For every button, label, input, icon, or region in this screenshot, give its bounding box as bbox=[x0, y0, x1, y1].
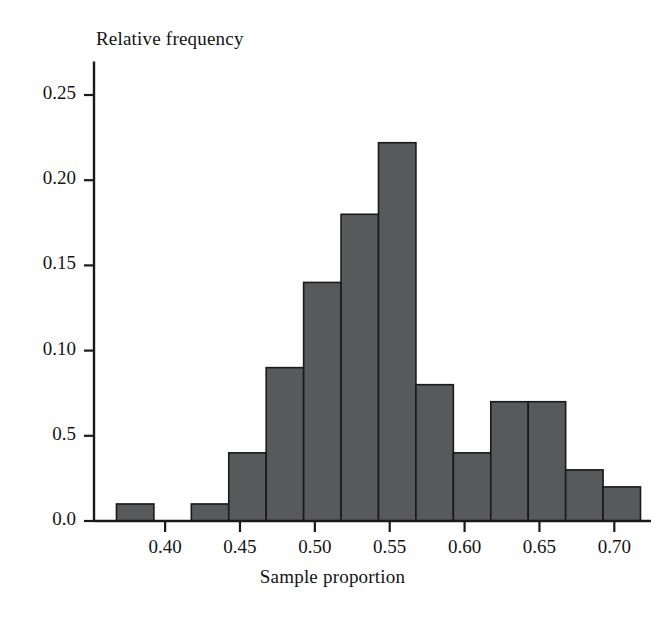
x-axis-tick-label: 0.50 bbox=[275, 536, 355, 558]
histogram-bar bbox=[229, 453, 266, 521]
y-axis-tick-label: 0.10 bbox=[14, 338, 76, 360]
y-axis-ticks bbox=[84, 95, 94, 521]
histogram-bar bbox=[116, 504, 153, 521]
histogram-bar bbox=[603, 487, 640, 521]
histogram-bar bbox=[453, 453, 490, 521]
y-axis-tick-label: 0.15 bbox=[14, 252, 76, 274]
x-axis-tick-label: 0.55 bbox=[350, 536, 430, 558]
histogram-bar bbox=[378, 143, 415, 521]
histogram-bar bbox=[491, 402, 528, 521]
y-axis-tick-label: 0.25 bbox=[14, 82, 76, 104]
y-axis-tick-label: 0.0 bbox=[14, 508, 76, 530]
x-axis-tick-label: 0.40 bbox=[125, 536, 205, 558]
y-axis-tick-label: 0.20 bbox=[14, 167, 76, 189]
histogram-bar bbox=[566, 470, 603, 521]
histogram-bars bbox=[116, 143, 640, 521]
x-axis-ticks bbox=[165, 521, 614, 532]
x-axis-title: Sample proportion bbox=[0, 566, 665, 588]
histogram-bar bbox=[528, 402, 565, 521]
histogram-bar bbox=[304, 282, 341, 521]
histogram-figure: Relative frequency Sample proportion 0.2… bbox=[0, 0, 665, 624]
histogram-plot-area bbox=[0, 0, 665, 624]
x-axis-tick-label: 0.70 bbox=[574, 536, 654, 558]
histogram-bar bbox=[416, 385, 453, 521]
y-axis-tick-label: 0.5 bbox=[14, 423, 76, 445]
histogram-bar bbox=[266, 368, 303, 521]
x-axis-tick-label: 0.60 bbox=[425, 536, 505, 558]
histogram-bar bbox=[341, 214, 378, 521]
histogram-bar bbox=[191, 504, 228, 521]
x-axis-tick-label: 0.65 bbox=[499, 536, 579, 558]
x-axis-tick-label: 0.45 bbox=[200, 536, 280, 558]
